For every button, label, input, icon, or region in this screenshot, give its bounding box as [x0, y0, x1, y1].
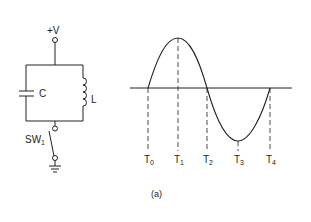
figure-caption: (a) — [151, 189, 162, 199]
lc-tank-figure: +V C L SW1 T0 T1 T2 T3 T4 (a) — [0, 0, 311, 222]
switch-terminal-icon — [53, 156, 58, 161]
capacitor-label: C — [39, 89, 46, 99]
time-label-t4: T4 — [266, 155, 276, 168]
sine-wave — [148, 38, 270, 141]
time-label-t2: T2 — [203, 155, 213, 168]
supply-terminal-icon — [53, 38, 58, 43]
ground-icon — [49, 166, 61, 172]
inductor-label: L — [91, 95, 97, 105]
waveform-plot — [130, 38, 292, 151]
switch-label: SW1 — [25, 135, 45, 148]
time-label-t0: T0 — [144, 155, 154, 168]
inductor-coil-icon — [83, 78, 87, 106]
switch-terminal-icon — [53, 126, 58, 131]
supply-label: +V — [47, 26, 60, 36]
switch-blade-icon — [49, 131, 54, 156]
time-label-t1: T1 — [174, 155, 184, 168]
time-label-t3: T3 — [234, 155, 244, 168]
lc-circuit — [19, 38, 87, 173]
